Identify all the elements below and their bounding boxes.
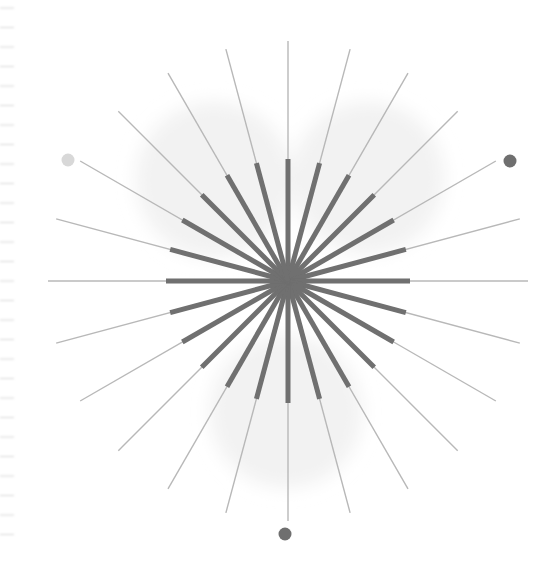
marker-left [62,154,75,167]
inner-thick-ray-group [166,159,410,403]
blob-upper-left [136,102,292,258]
marker-right [504,155,517,168]
starburst-figure [0,0,560,561]
marker-bottom [279,528,292,541]
figure-canvas [0,0,560,561]
